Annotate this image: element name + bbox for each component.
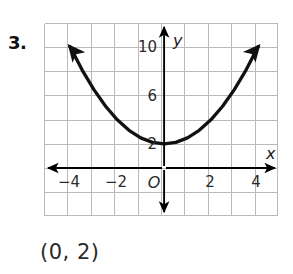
y-tick-label-6: 6 (147, 87, 157, 105)
y-tick-label-10: 10 (138, 38, 157, 56)
x-tick-label-4: 4 (251, 173, 261, 191)
y-axis-label: y (172, 31, 183, 50)
answer-text: (0, 2) (40, 240, 99, 264)
problem-number: 3. (8, 32, 26, 53)
x-tick-label-2: 2 (205, 173, 215, 191)
x-tick-label-neg4: −4 (58, 173, 80, 191)
origin-label: O (148, 173, 161, 192)
y-tick-label-2: 2 (147, 135, 157, 153)
coordinate-graph: 10 6 2 O −4 −2 2 4 y x (44, 23, 278, 216)
worksheet-page: 3. (0, 0, 293, 274)
x-axis-label: x (265, 144, 276, 163)
x-tick-label-neg2: −2 (105, 173, 127, 191)
